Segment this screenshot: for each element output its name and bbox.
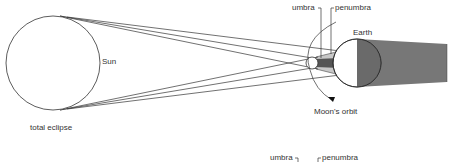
eclipse-diagram <box>0 0 457 165</box>
penumbra-leader <box>331 8 334 54</box>
penumbra-label: penumbra <box>335 4 371 12</box>
sun <box>6 16 100 110</box>
moon-orbit-label: Moon's orbit <box>314 108 357 116</box>
orbit-arrow-icon <box>328 97 335 102</box>
umbra-label: umbra <box>292 4 315 12</box>
umbra-bottom-label: umbra <box>270 154 293 162</box>
penumbra-bottom-label: penumbra <box>322 154 358 162</box>
earth-label: Earth <box>353 29 372 37</box>
sun-label: Sun <box>102 58 116 66</box>
umbra-bottom-leader <box>295 158 298 162</box>
caption-label: total eclipse <box>30 124 72 132</box>
penumbra-bottom-leader <box>318 158 321 162</box>
